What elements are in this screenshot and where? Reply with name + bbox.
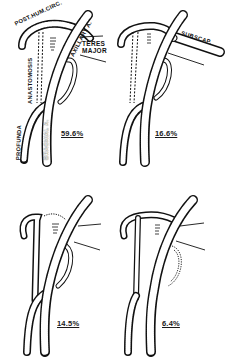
percentage-label: 16.6% bbox=[155, 129, 177, 138]
hatch-marks bbox=[52, 224, 59, 233]
percentage-label: 14.5% bbox=[57, 319, 79, 328]
label-brachial-artery: BRACHIAL A. bbox=[44, 119, 50, 160]
hatch-marks bbox=[147, 34, 151, 43]
dotted-loop bbox=[168, 246, 181, 286]
label-major: MAJOR bbox=[82, 48, 107, 55]
anastomosis-dashed-vessel bbox=[37, 32, 43, 103]
label-profunda: PROFUNDA bbox=[16, 125, 23, 160]
teres-major-lines bbox=[74, 224, 101, 250]
post-hum-circ-artery bbox=[121, 26, 168, 44]
panel-2-vessel-drawing bbox=[116, 0, 233, 180]
panel-4-vessel-drawing bbox=[116, 180, 233, 361]
teres-major-lines bbox=[168, 53, 204, 65]
dotted-arch bbox=[44, 214, 66, 220]
percentage-label: 6.4% bbox=[162, 319, 180, 328]
axillary-brachial-artery bbox=[150, 200, 193, 352]
profunda-artery bbox=[128, 296, 136, 352]
vertical-branch bbox=[136, 218, 138, 298]
teres-major-lines bbox=[176, 223, 205, 250]
hatch-marks bbox=[155, 225, 160, 234]
percentage-label: 59.6% bbox=[61, 129, 83, 138]
label-anastomosis: ANASTOMOSIS bbox=[28, 58, 34, 104]
hatch-marks bbox=[50, 38, 56, 50]
panel-2-subscapular-variation: SUBSCAP. 16.6% bbox=[116, 0, 233, 180]
anastomosis-dashed-vessel bbox=[130, 32, 138, 103]
panel-1-most-common-variation: POST.HUM.CIRC. AXILLARY A. TERES MAJOR A… bbox=[0, 0, 116, 180]
post-hum-circ-artery bbox=[23, 217, 38, 300]
panel-3-vessel-drawing bbox=[0, 180, 116, 361]
panel-3-variation: 14.5% bbox=[0, 180, 116, 361]
panel-4-variation: 6.4% bbox=[116, 180, 233, 361]
